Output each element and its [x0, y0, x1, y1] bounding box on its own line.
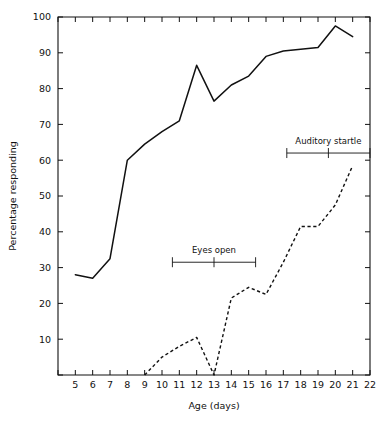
annotation-label: Eyes open [192, 245, 236, 255]
x-tick-label: 21 [347, 379, 359, 390]
x-tick-label: 11 [173, 379, 185, 390]
y-tick-label: 50 [39, 190, 51, 201]
y-axis-tick-labels: 102030405060708090100 [33, 11, 51, 344]
x-axis-title: Age (days) [188, 400, 239, 411]
axes-frame [58, 17, 370, 375]
y-tick-label: 80 [39, 83, 51, 94]
plot-frame-spines [58, 17, 370, 375]
y-axis-title: Percentage responding [7, 141, 18, 251]
x-tick-label: 8 [124, 379, 130, 390]
series-line-solid-curve [75, 26, 352, 278]
x-axis-ticks [58, 17, 370, 375]
x-tick-label: 13 [208, 379, 220, 390]
x-tick-label: 17 [277, 379, 289, 390]
x-tick-label: 7 [107, 379, 113, 390]
x-tick-label: 12 [191, 379, 203, 390]
chart-figure: 5678910111213141516171819202122 10203040… [0, 0, 386, 425]
y-tick-label: 10 [39, 334, 51, 345]
annotations-layer: Eyes openAuditory startle [172, 136, 370, 267]
x-tick-label: 5 [72, 379, 78, 390]
y-tick-label: 30 [39, 262, 51, 273]
x-tick-label: 9 [142, 379, 148, 390]
x-axis-tick-labels: 5678910111213141516171819202122 [72, 379, 376, 390]
x-tick-label: 20 [329, 379, 341, 390]
y-tick-label: 40 [39, 226, 51, 237]
y-tick-label: 100 [33, 11, 51, 22]
x-tick-label: 15 [243, 379, 255, 390]
x-tick-label: 6 [90, 379, 96, 390]
percentage-responding-line-chart: 5678910111213141516171819202122 10203040… [0, 0, 386, 425]
y-tick-label: 60 [39, 155, 51, 166]
x-tick-label: 14 [225, 379, 237, 390]
y-tick-label: 70 [39, 119, 51, 130]
x-tick-label: 18 [295, 379, 307, 390]
y-axis-ticks [58, 17, 370, 375]
x-tick-label: 19 [312, 379, 324, 390]
x-tick-label: 16 [260, 379, 272, 390]
data-series-layer [75, 26, 352, 375]
y-tick-label: 20 [39, 298, 51, 309]
x-tick-label: 10 [156, 379, 168, 390]
x-tick-label: 22 [364, 379, 376, 390]
series-line-dashed-curve [145, 166, 353, 375]
annotation-label: Auditory startle [295, 136, 361, 146]
y-tick-label: 90 [39, 47, 51, 58]
